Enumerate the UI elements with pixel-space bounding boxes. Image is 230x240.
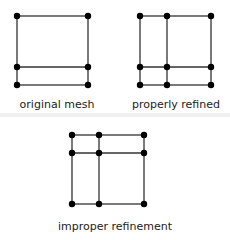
original-mesh — [17, 16, 88, 85]
properly-refined-nodes — [137, 13, 214, 88]
improper-refinement-label: improper refinement — [58, 220, 173, 233]
improper-refinement-nodes — [69, 132, 147, 207]
properly-refined-label: properly refined — [132, 98, 220, 111]
original-mesh-label: original mesh — [20, 98, 95, 111]
improper-refinement-mesh — [72, 135, 144, 204]
separator-band — [0, 113, 230, 117]
properly-refined-mesh — [140, 16, 211, 85]
mesh-refinement-diagram: original mesh properly refined improper … — [0, 0, 230, 240]
original-mesh-nodes — [14, 13, 91, 88]
